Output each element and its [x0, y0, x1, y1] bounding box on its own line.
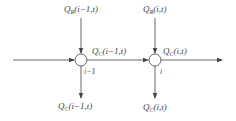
- label-qc-bottom-right: QC(i,t): [143, 103, 167, 113]
- label-qr-right: QR(i,t): [143, 5, 166, 15]
- label-qc-mid: QC(i−1,t): [92, 47, 126, 57]
- node-left: [75, 54, 87, 66]
- label-args: (i,t): [174, 46, 187, 56]
- label-qc-right: QC(i,t): [163, 47, 187, 57]
- node-right-index: i: [160, 68, 162, 76]
- flow-diagram: [0, 0, 236, 121]
- label-qr-left: QR(i−1,t): [64, 5, 98, 15]
- node-left-index: i−1: [84, 68, 96, 76]
- label-args: (i−1,t): [69, 101, 93, 111]
- node-right: [149, 54, 161, 66]
- label-args: (i,t): [153, 4, 166, 14]
- label-args: (i−1,t): [103, 46, 127, 56]
- label-args: (i,t): [154, 102, 167, 112]
- label-args: (i−1,t): [74, 4, 98, 14]
- label-qc-bottom-left: QC(i−1,t): [58, 102, 92, 112]
